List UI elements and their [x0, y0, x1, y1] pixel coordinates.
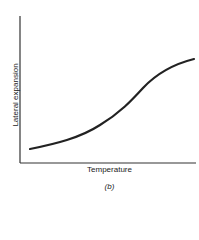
expansion-curve	[30, 59, 194, 149]
y-axis-label: Lateral expansion	[11, 63, 20, 126]
x-axis-label: Temperature	[0, 165, 199, 174]
figure-caption: (b)	[0, 182, 199, 191]
